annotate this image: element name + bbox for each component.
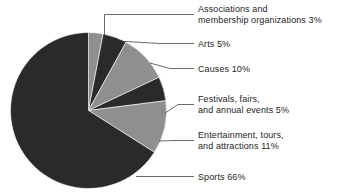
label-festivals-line2: and annual events 5%: [198, 105, 289, 115]
pie-slices: [10, 32, 166, 188]
leader-line-arts: [118, 41, 194, 44]
label-festivals-line1: Festivals, fairs,: [198, 94, 260, 104]
label-associations-line2: membership organizations 3%: [198, 15, 322, 25]
leader-line-entertainment: [159, 141, 194, 142]
leader-line-causes: [150, 63, 194, 69]
label-entertainment-line2: and attractions 11%: [198, 141, 279, 151]
label-sports-line1: Sports 66%: [198, 172, 246, 182]
label-entertainment-line1: Entertainment, tours,: [198, 130, 284, 140]
label-associations-line1: Associations and: [198, 4, 268, 14]
callout-labels: Associations and membership organization…: [198, 4, 322, 182]
chart-svg: Associations and membership organization…: [0, 0, 344, 193]
leader-line-associations: [105, 15, 195, 37]
label-causes-line1: Causes 10%: [198, 64, 250, 74]
leader-line-festivals: [165, 105, 194, 114]
pie-chart-figure: Associations and membership organization…: [0, 0, 344, 193]
label-arts-line1: Arts 5%: [198, 39, 230, 49]
